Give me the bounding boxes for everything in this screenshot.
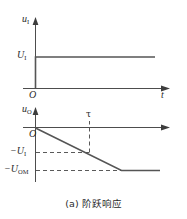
top-level-label-ui: UI — [17, 50, 26, 60]
bottom-origin-label: O — [29, 129, 36, 139]
input-step-waveform — [36, 57, 156, 88]
tau-label: τ — [86, 110, 91, 119]
top-y-axis-label: uI — [22, 14, 29, 24]
figure-container: uI UI O t uO τ O −UI −UOM (a) 阶跃响应 — [0, 0, 187, 219]
bottom-y-axis-label: uO — [22, 104, 32, 114]
bottom-level-label-minus-ui: −UI — [10, 146, 26, 156]
top-y-axis-arrow-icon — [33, 17, 39, 25]
output-ramp-waveform — [36, 128, 161, 171]
plot-bottom-group — [23, 107, 170, 182]
bottom-level-label-minus-uom: −UOM — [4, 164, 28, 174]
top-origin-label: O — [29, 90, 36, 100]
figure-caption: (a) 阶跃响应 — [0, 196, 187, 210]
bottom-y-axis-arrow-icon — [33, 107, 39, 115]
bottom-x-axis-arrow-icon — [161, 125, 170, 131]
plot-top-group — [23, 17, 170, 91]
top-x-axis-label: t — [161, 90, 164, 100]
